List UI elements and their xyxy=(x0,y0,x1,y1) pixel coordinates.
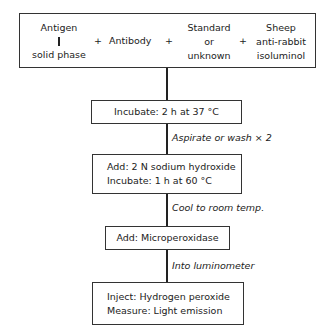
connector-line xyxy=(166,193,168,226)
transition-luminometer: Into luminometer xyxy=(172,260,254,272)
standard-or-unknown: Standard or unknown xyxy=(180,18,238,66)
step-text: Incubate: 1 h at 60 °C xyxy=(107,174,241,188)
anti-rabbit-label: anti-rabbit xyxy=(256,35,306,49)
attachment-bar-icon xyxy=(58,37,60,46)
antigen-label: Antigen xyxy=(41,21,78,35)
step-inject-measure: Inject: Hydrogen peroxide Measure: Light… xyxy=(92,282,244,325)
sheep-label: Sheep xyxy=(266,21,296,35)
step-text: Add: Microperoxidase xyxy=(116,231,218,245)
antibody-label: Antibody xyxy=(109,34,151,47)
reagents-box: Antigen solid phase + Antibody + Standar… xyxy=(19,13,316,68)
connector-line xyxy=(166,249,168,282)
or-label: or xyxy=(204,35,214,49)
antigen-solid-phase: Antigen solid phase xyxy=(24,17,94,65)
isoluminol-label: isoluminol xyxy=(257,49,305,63)
step-text: Incubate: 2 h at 37 °C xyxy=(114,105,219,119)
step-incubate-37: Incubate: 2 h at 37 °C xyxy=(91,100,242,124)
unknown-label: unknown xyxy=(187,49,230,63)
transition-cool: Cool to room temp. xyxy=(172,202,264,214)
plus-sign: + xyxy=(94,34,102,47)
sheep-anti-rabbit-isoluminol: Sheep anti-rabbit isoluminol xyxy=(248,18,314,66)
step-text: Inject: Hydrogen peroxide xyxy=(107,290,243,304)
plus-sign: + xyxy=(239,34,247,47)
connector-line xyxy=(166,123,168,154)
step-text: Measure: Light emission xyxy=(107,304,243,318)
step-naoh-incubate-60: Add: 2 N sodium hydroxide Incubate: 1 h … xyxy=(92,154,242,194)
solid-phase-label: solid phase xyxy=(32,48,86,62)
step-microperoxidase: Add: Microperoxidase xyxy=(105,226,230,250)
step-text: Add: 2 N sodium hydroxide xyxy=(107,160,241,174)
standard-label: Standard xyxy=(187,21,230,35)
transition-aspirate-wash: Aspirate or wash × 2 xyxy=(172,132,272,144)
plus-sign: + xyxy=(165,34,173,47)
connector-line xyxy=(166,68,168,100)
